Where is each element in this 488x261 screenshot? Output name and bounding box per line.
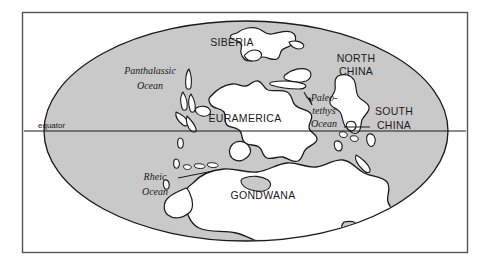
label-panthalassic-ocean-line2: Ocean bbox=[137, 80, 163, 91]
label-gondwana: GONDWANA bbox=[230, 189, 295, 201]
label-south-china-line2: CHINA bbox=[377, 119, 411, 131]
landmass-islet-a bbox=[178, 138, 184, 148]
label-north-china-line2: CHINA bbox=[339, 65, 373, 77]
label-paleo-tethys-line1: Paleo- bbox=[310, 92, 338, 103]
label-euramerica: EURAMERICA bbox=[208, 112, 281, 124]
label-paleo-tethys-line2: tethys bbox=[312, 105, 335, 116]
landmass-euramerica-south-lobe bbox=[229, 141, 250, 160]
landmass-south-china bbox=[346, 121, 356, 131]
landmass-south-china-islet-4 bbox=[334, 141, 342, 151]
landmass-south-china-islet-3 bbox=[367, 134, 376, 147]
landmass-south-china-islet-1 bbox=[339, 132, 347, 138]
equator-label: equator bbox=[38, 121, 65, 130]
landmass-islet-e bbox=[207, 163, 218, 168]
label-north-china-line1: NORTH bbox=[337, 52, 376, 64]
map-canvas: equator SIBERIA EURAMERICA NORTH CHINA S… bbox=[0, 0, 488, 261]
landmass-islet-d bbox=[194, 164, 205, 169]
label-panthalassic-ocean-line1: Panthalassic bbox=[123, 65, 176, 76]
paleogeographic-map-figure: equator SIBERIA EURAMERICA NORTH CHINA S… bbox=[0, 0, 488, 261]
label-paleo-tethys-line3: Ocean bbox=[311, 118, 337, 129]
label-rheic-ocean-line1: Rheic bbox=[143, 171, 167, 182]
label-siberia: SIBERIA bbox=[210, 36, 254, 48]
landmass-islet-b bbox=[174, 159, 180, 168]
landmass-south-china-islet-2 bbox=[350, 136, 358, 142]
label-rheic-ocean-line2: Ocean bbox=[142, 186, 168, 197]
label-south-china-line1: SOUTH bbox=[375, 105, 413, 117]
landmass-islet-c bbox=[183, 165, 191, 170]
